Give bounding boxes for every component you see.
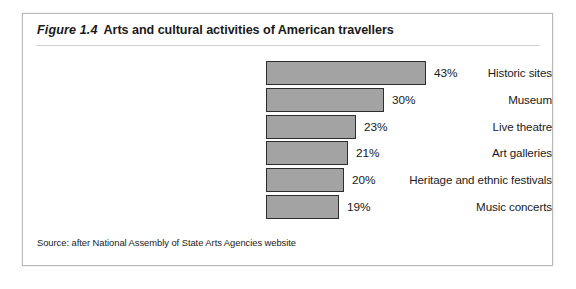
bar-value-label: 23% [364, 114, 388, 141]
bar-track: 30% [266, 87, 552, 114]
bar [266, 141, 348, 165]
source-note: Source: after National Assembly of State… [37, 237, 296, 248]
bar [266, 88, 384, 112]
bar-chart: Historic sites43%Museum30%Live theatre23… [23, 60, 552, 228]
bar [266, 61, 426, 85]
bar [266, 195, 339, 219]
bar-value-label: 30% [392, 87, 416, 114]
bar-value-label: 20% [352, 167, 376, 194]
bar-value-label: 43% [434, 60, 458, 87]
chart-row: Heritage and ethnic festivals20% [23, 167, 552, 194]
chart-row: Live theatre23% [23, 114, 552, 141]
chart-row: Historic sites43% [23, 60, 552, 87]
page-title: Arts and cultural activities of American… [104, 23, 394, 37]
bar [266, 115, 356, 139]
bar-value-label: 19% [347, 194, 371, 221]
caption-divider [36, 45, 540, 46]
chart-row: Museum30% [23, 87, 552, 114]
bar-track: 43% [266, 60, 552, 87]
chart-row: Art galleries21% [23, 140, 552, 167]
figure-caption: Figure 1.4Arts and cultural activities o… [37, 22, 394, 38]
bar-track: 19% [266, 194, 552, 221]
bar-value-label: 21% [356, 140, 380, 167]
bar [266, 168, 344, 192]
figure-number: Figure 1.4 [37, 23, 98, 37]
bar-track: 21% [266, 140, 552, 167]
figure-frame: Figure 1.4Arts and cultural activities o… [22, 13, 553, 266]
bar-track: 20% [266, 167, 552, 194]
chart-row: Music concerts19% [23, 194, 552, 221]
bar-track: 23% [266, 114, 552, 141]
